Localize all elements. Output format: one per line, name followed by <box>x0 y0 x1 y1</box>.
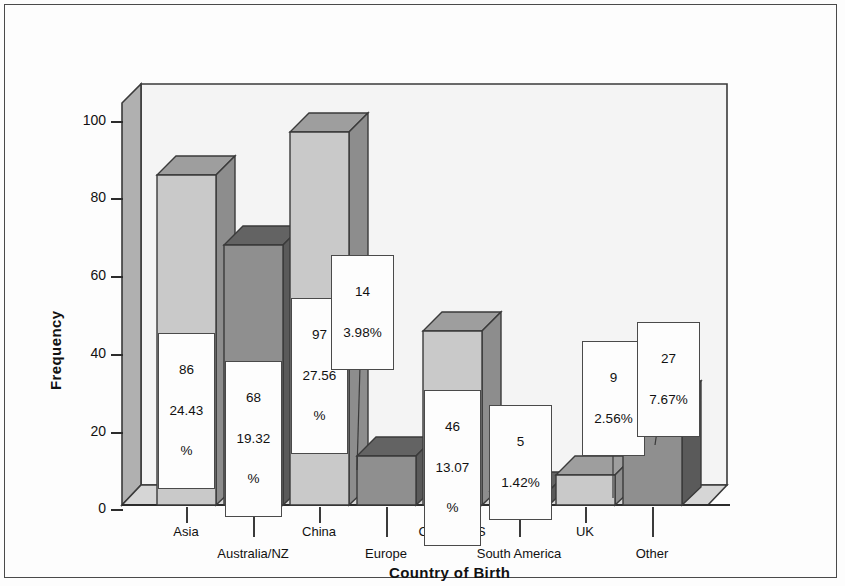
y-tick-label: 20 <box>60 423 106 439</box>
y-tick-label: 40 <box>60 345 106 361</box>
y-tick-mark <box>111 276 123 278</box>
data-label-percent-tail: % <box>295 409 344 423</box>
x-tick-mark <box>319 507 321 523</box>
data-label-percent: 19.32 <box>229 432 278 446</box>
y-tick-label: 60 <box>60 267 106 283</box>
data-label-percent: 1.42% <box>493 476 548 490</box>
x-tick-label-europe: Europe <box>336 546 436 561</box>
data-label-count: 46 <box>428 420 477 434</box>
plot-left-wall <box>122 84 141 505</box>
data-label-percent: 13.07 <box>428 461 477 475</box>
data-label-percent: 24.43 <box>162 404 211 418</box>
x-tick-label-south-america: South America <box>449 546 589 561</box>
y-tick-label: 0 <box>60 500 106 516</box>
data-label-percent-tail: % <box>428 501 477 515</box>
bar-chart-3d: Frequency 100 80 60 40 20 0 Asia Austral… <box>0 0 845 586</box>
y-tick-mark <box>111 509 123 511</box>
data-label-percent-tail: % <box>162 444 211 458</box>
x-tick-mark <box>585 507 587 523</box>
x-axis-title: Country of Birth <box>389 564 510 581</box>
data-label-percent: 3.98% <box>335 326 390 340</box>
x-tick-label-uk: UK <box>535 524 635 539</box>
bar-uk <box>556 456 634 505</box>
x-tick-mark <box>186 507 188 523</box>
x-tick-mark <box>652 507 654 537</box>
y-tick-mark <box>111 354 123 356</box>
data-label-percent: 2.56% <box>586 412 641 426</box>
y-tick-mark <box>111 432 123 434</box>
data-label-asia: 86 24.43 % <box>158 333 215 489</box>
plot-box-3d <box>0 0 845 586</box>
data-label-south-america: 5 1.42% <box>489 405 552 520</box>
x-tick-label-china: China <box>269 524 369 539</box>
data-label-other: 27 7.67% <box>637 322 700 437</box>
data-label-percent: 7.67% <box>641 393 696 407</box>
y-tick-label: 100 <box>60 112 106 128</box>
data-label-australia-nz: 68 19.32 % <box>225 361 282 517</box>
data-label-count: 9 <box>586 371 641 385</box>
figure-page: Frequency 100 80 60 40 20 0 Asia Austral… <box>0 0 845 586</box>
data-label-uk: 9 2.56% <box>582 341 645 456</box>
data-label-percent: 27.56 <box>295 369 344 383</box>
data-label-count: 86 <box>162 363 211 377</box>
x-tick-label-australia-nz: Australia/NZ <box>193 546 313 561</box>
x-tick-mark <box>386 507 388 537</box>
y-tick-mark <box>111 198 123 200</box>
y-tick-label: 80 <box>60 189 106 205</box>
x-tick-label-asia: Asia <box>136 524 236 539</box>
data-label-count: 68 <box>229 391 278 405</box>
data-label-count: 27 <box>641 352 696 366</box>
data-label-count: 5 <box>493 435 548 449</box>
data-label-europe: 14 3.98% <box>331 255 394 370</box>
data-label-count: 14 <box>335 285 390 299</box>
data-label-canada-us: 46 13.07 % <box>424 390 481 546</box>
y-tick-mark <box>111 121 123 123</box>
x-tick-label-other: Other <box>602 546 702 561</box>
data-label-percent-tail: % <box>229 472 278 486</box>
